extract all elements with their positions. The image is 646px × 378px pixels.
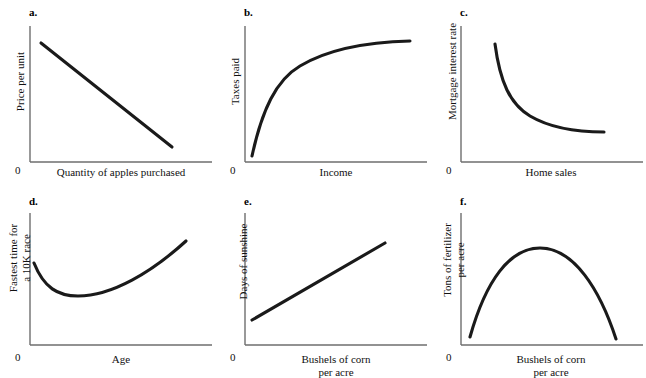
chart-a-svg: [0, 0, 215, 185]
y-axis-label-e: Days of sunshine: [237, 209, 250, 314]
origin-label-e: 0: [230, 351, 236, 363]
chart-panel-f: f. 0 Bushels of corn per acre Tons of fe…: [430, 185, 646, 378]
y-axis-label-f: Tons of fertilizer per acre: [441, 207, 467, 312]
y-axis-label-b: Taxes paid: [229, 39, 242, 124]
x-axis-label-f: Bushels of corn per acre: [461, 353, 641, 378]
curve-e: [252, 243, 385, 320]
chart-b-svg: [215, 0, 430, 185]
panel-letter-c: c.: [460, 6, 468, 18]
panel-letter-e: e.: [244, 195, 252, 207]
curve-d: [34, 241, 186, 296]
chart-panel-d: d. 0 Age Fastest time for a 10K race: [0, 185, 215, 378]
x-axis-label-a: Quantity of apples purchased: [30, 166, 212, 179]
origin-label-a: 0: [15, 164, 21, 176]
axes-e: [245, 213, 427, 345]
x-axis-label-e: Bushels of corn per acre: [245, 353, 427, 378]
panel-letter-d: d.: [29, 195, 38, 207]
axes-a: [30, 26, 212, 162]
origin-label-b: 0: [230, 164, 236, 176]
curve-b: [252, 41, 410, 156]
panel-letter-a: a.: [29, 6, 37, 18]
figure-panel-grid: a. 0 Quantity of apples purchased Price …: [0, 0, 646, 378]
origin-label-f: 0: [446, 351, 452, 363]
chart-panel-c: c. 0 Home sales Mortgage interest rate: [430, 0, 646, 185]
axes-d: [30, 213, 212, 345]
panel-letter-b: b.: [244, 6, 253, 18]
x-axis-label-c: Home sales: [461, 166, 641, 179]
origin-label-c: 0: [446, 164, 452, 176]
chart-c-svg: [430, 0, 646, 185]
x-axis-label-d: Age: [30, 353, 212, 366]
curve-a: [41, 43, 172, 147]
y-axis-label-c: Mortgage interest rate: [446, 11, 459, 131]
panel-letter-f: f.: [460, 195, 466, 207]
origin-label-d: 0: [15, 351, 21, 363]
curve-c: [495, 44, 604, 132]
axes-f: [461, 213, 643, 345]
curve-f: [470, 248, 616, 339]
y-axis-label-d: Fastest time for a 10K race: [7, 208, 33, 308]
chart-panel-a: a. 0 Quantity of apples purchased Price …: [0, 0, 215, 185]
x-axis-label-b: Income: [245, 166, 427, 179]
y-axis-label-a: Price per unit: [14, 36, 27, 126]
chart-panel-b: b. 0 Income Taxes paid: [215, 0, 430, 185]
chart-panel-e: e. 0 Bushels of corn per acre Days of su…: [215, 185, 430, 378]
axes-c: [461, 26, 643, 162]
